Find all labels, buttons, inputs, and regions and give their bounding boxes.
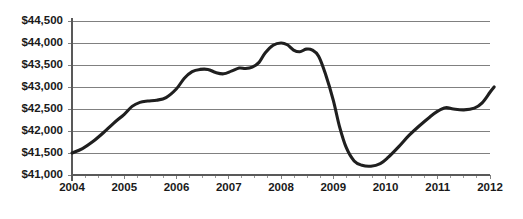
x-axis-tick-label: 2004	[59, 181, 85, 193]
x-axis-tick-label: 2005	[111, 181, 137, 193]
data-series-line	[72, 43, 494, 166]
y-axis-tick-label: $43,000	[21, 80, 63, 92]
chart-container: $41,000$41,500$42,000$42,500$43,000$43,5…	[0, 0, 523, 219]
x-axis-tick-label: 2010	[373, 181, 399, 193]
y-axis-tick-label: $44,500	[21, 14, 63, 26]
y-axis-tick-label: $43,500	[21, 58, 63, 70]
line-chart: $41,000$41,500$42,000$42,500$43,000$43,5…	[0, 0, 523, 219]
y-axis-tick-label: $42,500	[21, 102, 63, 114]
y-axis-tick-label: $44,000	[21, 36, 63, 48]
x-axis-tick-label: 2008	[268, 181, 294, 193]
x-axis-tick-label: 2006	[164, 181, 190, 193]
x-axis-tick-label: 2007	[216, 181, 242, 193]
x-axis-tick-labels: 200420052006200720082009201020112012	[59, 181, 503, 193]
y-axis-tick-label: $41,500	[21, 146, 63, 158]
gridlines	[72, 21, 490, 153]
y-axis-tick-label: $41,000	[21, 168, 63, 180]
x-axis-minor-tick-marks	[72, 175, 490, 179]
y-axis-tick-label: $42,000	[21, 124, 63, 136]
x-axis-tick-label: 2012	[477, 181, 503, 193]
x-axis-tick-label: 2009	[320, 181, 346, 193]
y-axis-tick-labels: $41,000$41,500$42,000$42,500$43,000$43,5…	[21, 14, 63, 180]
x-axis-tick-label: 2011	[425, 181, 451, 193]
